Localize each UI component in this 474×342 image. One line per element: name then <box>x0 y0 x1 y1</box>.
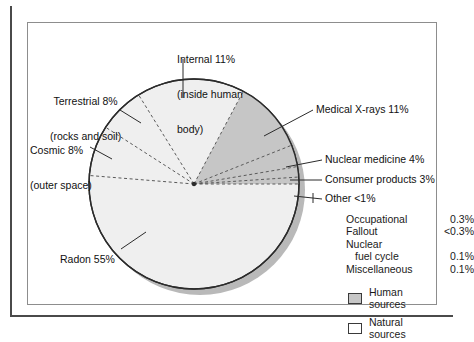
label-medical-xrays: Medical X-rays 11% <box>316 104 409 116</box>
breakdown-name-miscellaneous: Miscellaneous <box>346 263 413 275</box>
chart-legend: Human sources Natural sources <box>348 286 436 342</box>
label-radon: Radon 55% <box>60 254 115 266</box>
label-other: Other <1% <box>325 193 376 205</box>
legend-item-human-sources: Human sources <box>348 286 436 310</box>
legend-label-natural-sources: Natural sources <box>369 316 436 340</box>
legend-item-natural-sources: Natural sources <box>348 316 436 340</box>
breakdown-row-occupational: Occupational 0.3% <box>346 213 474 225</box>
breakdown-name-fallout: Fallout <box>346 225 378 237</box>
breakdown-name-fuel-cycle: fuel cycle <box>346 250 399 262</box>
outer-rule-left <box>10 6 12 317</box>
label-nuclear-medicine: Nuclear medicine 4% <box>325 154 424 166</box>
breakdown-value-miscellaneous: 0.1% <box>450 263 474 275</box>
breakdown-row-fallout: Fallout <0.3% <box>346 225 474 237</box>
label-internal: Internal 11% (inside human body) <box>177 31 243 159</box>
breakdown-name-nuclear: Nuclear <box>346 238 382 250</box>
pie-center-dot <box>192 182 196 186</box>
label-cosmic: Cosmic 8% (outer space) <box>30 122 92 215</box>
other-breakdown-list: Occupational 0.3% Fallout <0.3% Nuclear … <box>346 213 474 275</box>
legend-swatch-natural-sources <box>348 323 362 334</box>
chart-panel: Internal 11% (inside human body) Terrest… <box>27 22 437 305</box>
legend-label-human-sources: Human sources <box>369 286 436 310</box>
legend-swatch-human-sources <box>348 293 362 304</box>
breakdown-value-occupational: 0.3% <box>450 213 474 225</box>
breakdown-value-fuel-cycle: 0.1% <box>450 250 474 262</box>
label-consumer-products: Consumer products 3% <box>325 174 435 186</box>
breakdown-row-fuel-cycle: fuel cycle 0.1% <box>346 250 474 262</box>
breakdown-row-nuclear: Nuclear <box>346 238 474 250</box>
breakdown-name-occupational: Occupational <box>346 213 407 225</box>
breakdown-value-fallout: <0.3% <box>444 225 474 237</box>
breakdown-row-miscellaneous: Miscellaneous 0.1% <box>346 263 474 275</box>
